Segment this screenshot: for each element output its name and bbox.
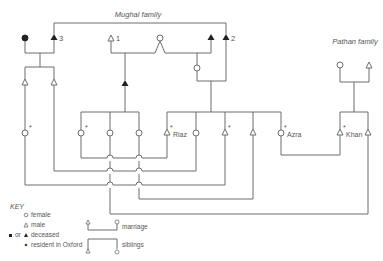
deceased-male-icon (24, 233, 28, 237)
azra-label: Azra (287, 131, 302, 138)
pathan-family: * Khan (337, 62, 372, 138)
male-icon (250, 129, 256, 135)
sibling-group-b: * Riaz * * Azra (164, 112, 302, 138)
male-icon (86, 249, 90, 253)
deceased-male-icon (51, 34, 58, 40)
deceased-female-icon (22, 35, 28, 41)
resident-marker: * (343, 124, 346, 131)
marriage-line (110, 135, 368, 214)
key-male: male (31, 221, 45, 228)
marriage-line (25, 135, 225, 185)
key-siblings: siblings (122, 241, 144, 249)
mughal-top-connector (54, 23, 226, 34)
couple-1: 1 2 (108, 34, 235, 112)
key-deceased: deceased (31, 231, 60, 238)
kinship-diagram: Mughal family Pathan family 3 * 1 2 (0, 0, 383, 261)
female-icon (136, 130, 142, 136)
key-or: or (15, 231, 22, 238)
sibling-line (167, 112, 281, 130)
key-title: KEY (10, 203, 25, 210)
marriage-symbol (88, 224, 117, 230)
male-icon (108, 35, 114, 41)
marriage-line (111, 40, 211, 53)
marriage-line (54, 136, 196, 171)
deceased-female-icon (9, 234, 12, 237)
male-icon (86, 220, 90, 224)
key-resident: resident in Oxford (31, 241, 83, 248)
resident-marker: * (85, 124, 88, 131)
male-icon (366, 62, 372, 68)
female-icon (22, 130, 28, 136)
individual-3-label: 3 (59, 34, 63, 43)
marriage-line (81, 135, 167, 158)
male-icon (365, 129, 371, 135)
female-icon (337, 62, 343, 68)
female-icon (107, 130, 113, 136)
individual-2-label: 2 (231, 34, 235, 43)
marriage-azra-khan (281, 135, 340, 155)
female-icon (194, 65, 200, 71)
male-icon (24, 223, 28, 227)
pathan-family-label: Pathan family (332, 37, 379, 46)
resident-marker: * (29, 124, 32, 131)
female-icon (115, 220, 119, 224)
deceased-male-icon (208, 34, 215, 40)
female-icon (193, 130, 199, 136)
siblings-symbol (88, 239, 117, 250)
legend: KEY female male or deceased resident in … (9, 203, 148, 254)
individual-1-label: 1 (116, 34, 120, 43)
female-icon (115, 250, 119, 254)
male-icon (51, 79, 57, 85)
marriage-line (25, 40, 54, 53)
key-marriage: marriage (122, 223, 148, 231)
khan-label: Khan (346, 131, 362, 138)
key-female: female (31, 211, 51, 218)
sibling-line (25, 67, 54, 79)
couple-3: 3 * (22, 34, 63, 185)
marriage-line (340, 68, 369, 82)
riaz-label: Riaz (173, 131, 188, 138)
sibling-line (196, 112, 253, 130)
female-icon (78, 130, 84, 136)
sibling-group-a: * (78, 112, 142, 136)
resident-marker: * (170, 124, 173, 131)
male-icon (22, 79, 28, 85)
resident-icon (25, 244, 28, 247)
resident-marker: * (228, 124, 231, 131)
deceased-male-icon (223, 34, 230, 40)
mughal-family-label: Mughal family (115, 10, 163, 19)
deceased-male-icon (122, 80, 129, 86)
female-icon (24, 213, 28, 217)
resident-marker: * (284, 124, 287, 131)
